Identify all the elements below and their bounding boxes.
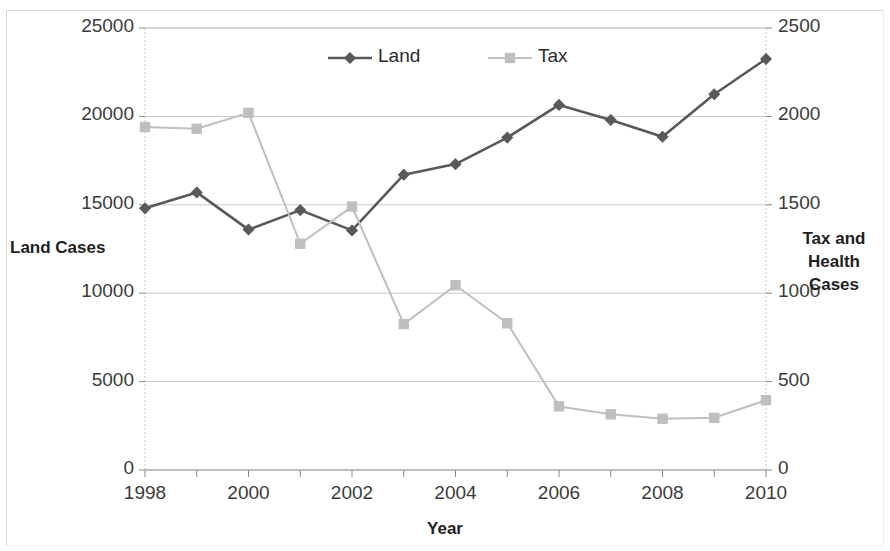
data-point-tax[interactable]: [761, 396, 770, 405]
data-point-tax[interactable]: [658, 414, 667, 423]
axis-tick-label-x: 1998: [100, 482, 190, 504]
axis-tick-label-x: 2002: [307, 482, 397, 504]
axis-tick-label-left: 20000: [40, 103, 134, 125]
data-point-tax[interactable]: [244, 108, 253, 117]
axis-tick-label-left: 0: [40, 457, 134, 479]
legend-marker-land: [345, 53, 355, 63]
legend-label-land[interactable]: Land: [378, 45, 420, 67]
axis-tick-label-right: 500: [778, 369, 868, 391]
dual-axis-line-chart: 0500010000150002000025000050010001500200…: [0, 0, 890, 551]
axis-tick-label-x: 2008: [618, 482, 708, 504]
axis-tick-label-right: 0: [778, 457, 868, 479]
axis-tick-label-x: 2006: [514, 482, 604, 504]
axis-title-left: Land Cases: [10, 238, 105, 258]
data-point-tax[interactable]: [399, 320, 408, 329]
axis-tick-label-left: 5000: [40, 369, 134, 391]
axis-tick-label-right: 1500: [778, 192, 868, 214]
data-point-land[interactable]: [295, 205, 305, 215]
axis-tick-label-right: 2000: [778, 103, 868, 125]
data-point-tax[interactable]: [606, 410, 615, 419]
data-point-tax[interactable]: [192, 124, 201, 133]
axis-tick-label-left: 25000: [40, 15, 134, 37]
data-point-tax[interactable]: [451, 281, 460, 290]
axis-title-x: Year: [0, 519, 890, 539]
axis-tick-label-x: 2004: [411, 482, 501, 504]
data-point-tax[interactable]: [347, 202, 356, 211]
axis-tick-label-left: 15000: [40, 192, 134, 214]
axis-tick-label-x: 2000: [204, 482, 294, 504]
axis-title-right: Tax andHealth Cases: [782, 228, 886, 297]
data-point-land[interactable]: [450, 159, 460, 169]
data-point-tax[interactable]: [710, 413, 719, 422]
legend-marker-tax: [505, 53, 514, 62]
data-point-tax[interactable]: [140, 122, 149, 131]
data-point-tax[interactable]: [503, 319, 512, 328]
axis-tick-label-right: 2500: [778, 15, 868, 37]
data-point-tax[interactable]: [554, 402, 563, 411]
legend-label-tax[interactable]: Tax: [538, 45, 568, 67]
data-point-tax[interactable]: [296, 239, 305, 248]
axis-tick-label-x: 2010: [721, 482, 811, 504]
axis-tick-label-left: 10000: [40, 280, 134, 302]
